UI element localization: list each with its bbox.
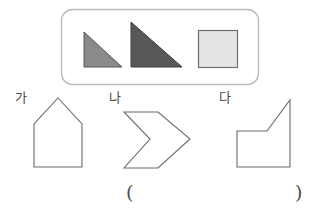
light-square	[199, 31, 238, 68]
choice-label-na: 나	[109, 91, 121, 105]
left-pointing-chevron-outline[interactable]	[124, 112, 190, 168]
answer-open-paren: (	[126, 183, 133, 202]
answer-close-paren: )	[295, 183, 302, 202]
shapes-svg-layer	[0, 0, 321, 216]
notched-pentagon-outline[interactable]	[237, 100, 290, 167]
choice-label-ga: 가	[15, 91, 27, 105]
worksheet-canvas: 가 나 다 ( )	[0, 0, 321, 216]
choice-label-da: 다	[219, 91, 231, 105]
house-pentagon-outline[interactable]	[34, 98, 82, 167]
